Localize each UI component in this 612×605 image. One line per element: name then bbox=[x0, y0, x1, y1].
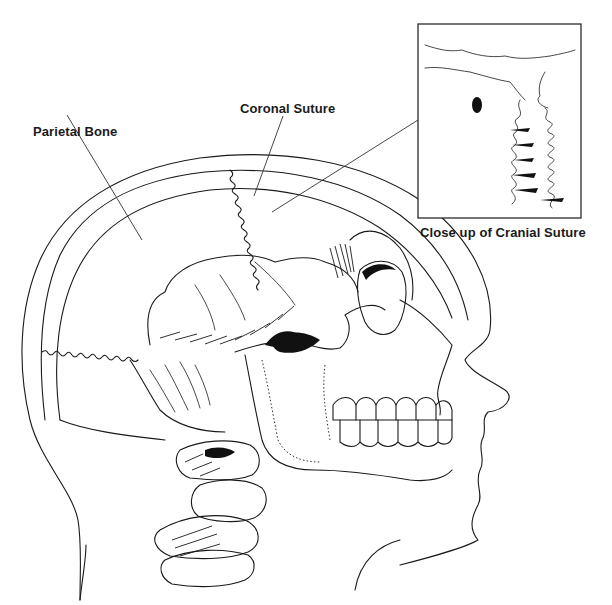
skull-outer-outline bbox=[41, 170, 468, 420]
coronal-suture-label: Coronal Suture bbox=[240, 101, 335, 116]
inset-frame bbox=[418, 24, 581, 218]
teeth bbox=[333, 398, 452, 447]
parietal-bone-label: Parietal Bone bbox=[33, 124, 117, 139]
occipital-contour-lines bbox=[150, 362, 210, 412]
mandible-outline bbox=[245, 355, 452, 481]
skull-inner-outline bbox=[57, 189, 452, 420]
neck-back-outline bbox=[80, 545, 86, 600]
inset-caption: Close up of Cranial Suture bbox=[420, 225, 586, 240]
mandible-ramus-dotted bbox=[262, 360, 330, 462]
vertebra-shading bbox=[205, 448, 235, 459]
skull-diagram: Parietal Bone Coronal Suture Close up of… bbox=[0, 0, 612, 605]
frontal-hatching bbox=[330, 244, 354, 278]
inset-leader-line bbox=[272, 120, 418, 212]
skull-illustration bbox=[0, 0, 612, 605]
occipital-outline bbox=[60, 360, 225, 440]
orbit-shading bbox=[362, 264, 396, 280]
sphenoid-lines bbox=[195, 262, 295, 330]
neck-front-outline bbox=[355, 540, 400, 590]
head-outline bbox=[22, 155, 509, 600]
